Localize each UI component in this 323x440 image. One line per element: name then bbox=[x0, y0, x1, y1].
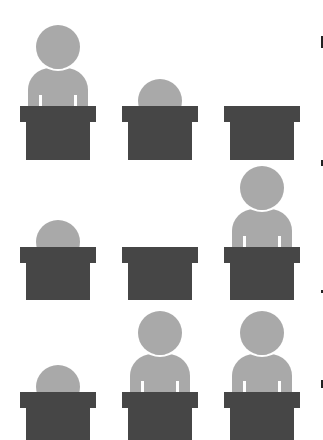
person-head-icon bbox=[240, 311, 284, 355]
podium-body bbox=[128, 122, 192, 160]
person-head-icon bbox=[240, 166, 284, 210]
podium-top bbox=[122, 106, 198, 122]
arm-slit bbox=[243, 381, 246, 392]
podium-body bbox=[26, 408, 90, 440]
podium-top bbox=[224, 106, 300, 122]
podium-top bbox=[20, 392, 96, 408]
arm-slit bbox=[176, 381, 179, 392]
person-head-icon bbox=[138, 311, 182, 355]
podium-body bbox=[128, 408, 192, 440]
person-torso bbox=[232, 209, 292, 247]
podium-body bbox=[26, 263, 90, 300]
podium-top bbox=[20, 106, 96, 122]
arm-slit bbox=[74, 95, 77, 106]
arm-slit bbox=[243, 236, 246, 247]
podium-top bbox=[122, 392, 198, 408]
arm-slit bbox=[39, 95, 42, 106]
podium-top bbox=[224, 247, 300, 263]
podium-top bbox=[122, 247, 198, 263]
person-torso bbox=[232, 354, 292, 392]
podium-body bbox=[230, 263, 294, 300]
podium-top bbox=[224, 392, 300, 408]
podium-body bbox=[128, 263, 192, 300]
podium-top bbox=[20, 247, 96, 263]
podium-body bbox=[230, 408, 294, 440]
person-head-icon bbox=[36, 25, 80, 69]
person-torso bbox=[130, 354, 190, 392]
arm-slit bbox=[278, 381, 281, 392]
podium-body bbox=[230, 122, 294, 160]
podium-body bbox=[26, 122, 90, 160]
person-torso bbox=[28, 68, 88, 106]
arm-slit bbox=[141, 381, 144, 392]
arm-slit bbox=[278, 236, 281, 247]
